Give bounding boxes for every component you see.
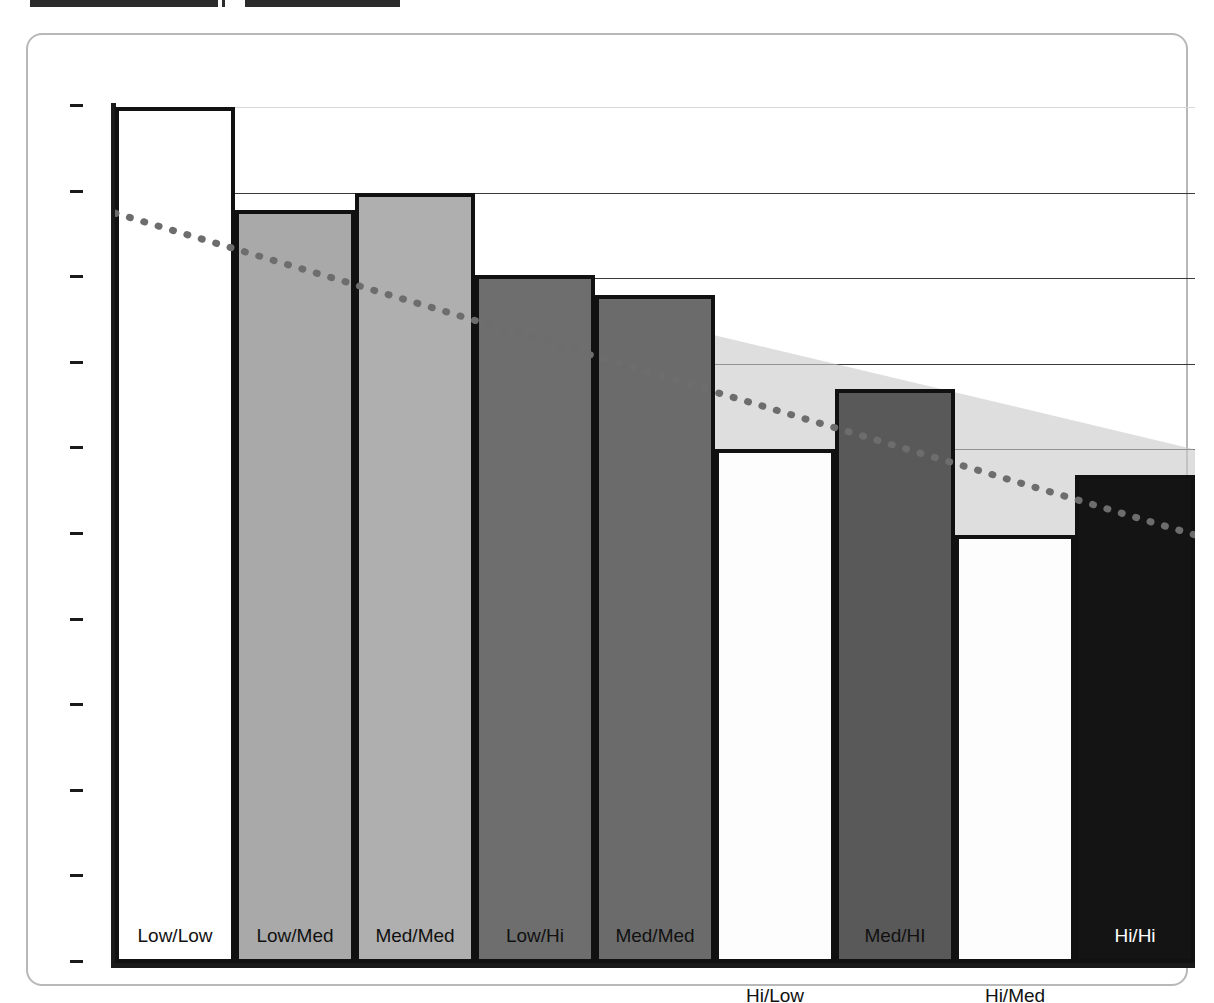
bar-label: Med/Med (599, 926, 711, 945)
y-axis-tick (70, 960, 83, 963)
bar-label: Low/Hi (479, 926, 591, 945)
bar-label: Med/HI (839, 926, 951, 945)
plot-area: Low/LowLow/MedMed/MedLow/HiMed/MedHi/Low… (115, 107, 1195, 963)
bar-series: Low/LowLow/MedMed/MedLow/HiMed/MedHi/Low… (115, 107, 1195, 963)
bar[interactable]: Med/Med (595, 295, 715, 963)
y-axis-tick (70, 190, 83, 193)
bar[interactable]: Hi/Hi (1075, 475, 1195, 963)
bar[interactable]: Med/Med (355, 193, 475, 963)
bar-label: Hi/Hi (1079, 926, 1191, 945)
y-axis-tick (70, 361, 83, 364)
bar[interactable]: Hi/Low (715, 449, 835, 963)
y-axis-tick (70, 275, 83, 278)
bar[interactable]: Low/Med (235, 210, 355, 963)
bar-label: Med/Med (359, 926, 471, 945)
bar-label: Hi/Med (959, 986, 1071, 1003)
y-axis-tick (70, 532, 83, 535)
y-axis-tick (70, 874, 83, 877)
y-axis-tick (70, 618, 83, 621)
chart-frame: Low/LowLow/MedMed/MedLow/HiMed/MedHi/Low… (26, 33, 1188, 986)
header-strip-right (245, 0, 400, 7)
y-axis-tick (70, 446, 83, 449)
bar[interactable]: Hi/Med (955, 535, 1075, 963)
bar[interactable]: Low/Hi (475, 275, 595, 963)
cropped-header-strips (0, 0, 1214, 12)
x-axis-line (111, 963, 1195, 968)
y-axis-tick (70, 789, 83, 792)
bar-label: Low/Med (239, 926, 351, 945)
header-strip-tick (222, 0, 224, 7)
bar[interactable]: Med/HI (835, 389, 955, 963)
bar-label: Low/Low (119, 926, 231, 945)
y-axis-tick (70, 703, 83, 706)
y-axis-tick (70, 104, 83, 107)
bar[interactable]: Low/Low (115, 107, 235, 963)
bar-label: Hi/Low (719, 986, 831, 1003)
